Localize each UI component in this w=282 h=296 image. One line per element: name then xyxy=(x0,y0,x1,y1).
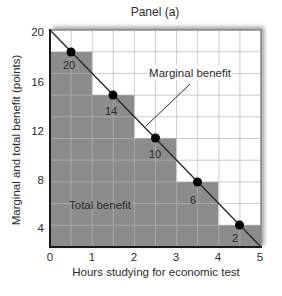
y-tick-4: 4 xyxy=(24,222,44,234)
x-tick-0: 0 xyxy=(40,251,60,263)
x-tick-5: 5 xyxy=(250,251,270,263)
data-point xyxy=(109,91,118,100)
data-point xyxy=(235,221,244,230)
data-point xyxy=(193,178,202,187)
x-tick-1: 1 xyxy=(82,251,102,263)
point-label: 2 xyxy=(232,232,238,244)
point-label: 14 xyxy=(105,105,117,117)
x-tick-3: 3 xyxy=(166,251,186,263)
y-tick-8: 8 xyxy=(24,174,44,186)
marginal-benefit-annotation: Marginal benefit xyxy=(149,67,232,79)
x-tick-4: 4 xyxy=(208,251,228,263)
point-label: 6 xyxy=(190,194,196,206)
y-tick-12: 12 xyxy=(24,125,44,137)
y-tick-16: 16 xyxy=(24,76,44,88)
data-point xyxy=(151,134,160,143)
x-tick-2: 2 xyxy=(124,251,144,263)
bar-hour-4 xyxy=(176,182,218,247)
data-point xyxy=(67,48,76,57)
point-label: 10 xyxy=(149,148,161,160)
y-tick-20: 20 xyxy=(24,26,44,38)
total-benefit-annotation: Total benefit xyxy=(69,199,132,211)
point-label: 20 xyxy=(63,59,75,71)
